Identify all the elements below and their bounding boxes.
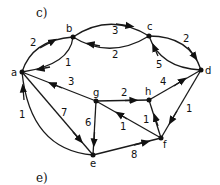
node-label-g: g: [93, 87, 99, 98]
node-label-b: b: [66, 23, 72, 34]
weight-c-d: 2: [183, 33, 189, 44]
weight-f-g: 1: [120, 121, 126, 132]
node-label-h: h: [145, 86, 151, 97]
weight-g-a: 3: [68, 76, 74, 87]
node-label-f: f: [163, 139, 167, 150]
weight-g-h: 2: [121, 87, 127, 98]
node-d: [199, 68, 204, 73]
arrow-a-b-icon: [40, 41, 53, 48]
arrow-g-a-icon: [52, 84, 62, 88]
weight-h-d: 4: [160, 76, 166, 87]
weight-e-a: 1: [19, 109, 25, 120]
edge-e-f: [93, 138, 161, 155]
node-h: [147, 98, 152, 103]
node-label-a: a: [11, 67, 17, 78]
node-label-e: e: [90, 158, 96, 169]
arrow-e-a-icon: [23, 88, 24, 100]
arrow-d-f-icon: [171, 111, 177, 121]
arrow-e-f-icon: [134, 142, 146, 145]
node-c: [147, 34, 152, 39]
weight-b-a: 1: [65, 57, 71, 68]
arrow-c-d-icon: [188, 47, 195, 57]
node-e: [91, 153, 96, 158]
directed-graph: c) e) 2 1 3 2 2 5 3 2 4 1 1 1 6: [0, 0, 220, 185]
arrow-h-d-icon: [174, 80, 183, 86]
weight-e-f: 8: [131, 149, 137, 160]
weight-d-f: 1: [186, 103, 192, 114]
arrow-f-g-icon: [119, 114, 127, 119]
weight-b-c: 3: [112, 25, 118, 36]
weight-a-b: 2: [30, 37, 36, 48]
node-g: [94, 99, 99, 104]
node-label-c: c: [147, 21, 153, 32]
node-a: [20, 70, 25, 75]
node-b: [71, 35, 76, 40]
edge-g-h: [96, 100, 149, 101]
weight-f-h: 1: [143, 114, 149, 125]
arrow-g-e-icon: [94, 132, 95, 143]
node-label-d: d: [205, 65, 211, 76]
edge-g-e: [93, 101, 96, 155]
weight-a-e: 7: [61, 107, 67, 118]
edge-c-b: [73, 36, 149, 48]
edge-d-f: [161, 70, 201, 138]
weight-d-c: 5: [156, 59, 162, 70]
arrow-a-e-icon: [73, 132, 80, 140]
panel-label-e: e): [36, 171, 48, 185]
edge-b-c: [73, 24, 149, 37]
weight-c-b: 2: [112, 49, 118, 60]
panel-label-c: c): [36, 6, 47, 20]
weight-g-e: 6: [85, 117, 91, 128]
